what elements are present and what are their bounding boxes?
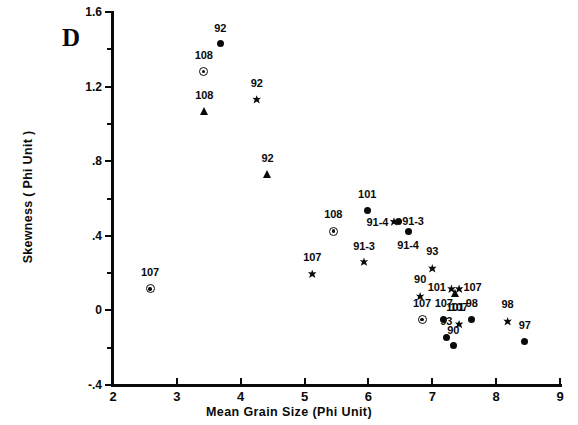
y-axis-title: Skewness ( Phi Unit )	[21, 107, 35, 287]
x-tick-label: 6	[353, 389, 383, 404]
y-tick-label: 0	[56, 303, 102, 317]
y-minor-tick	[107, 347, 113, 349]
marker-triangle-icon	[451, 289, 459, 297]
x-tick	[559, 378, 561, 384]
y-tick	[105, 86, 113, 88]
marker-star-icon	[252, 95, 261, 104]
x-tick-label: 4	[226, 389, 256, 404]
marker-ringdot-icon	[329, 227, 338, 236]
data-point-label: 91-4	[367, 216, 389, 227]
y-tick-label: 1.6	[56, 5, 102, 19]
y-tick	[105, 384, 113, 386]
data-point-label: 91-3	[402, 216, 424, 227]
data-point-label: 108	[324, 209, 342, 220]
data-point-label: 107	[141, 267, 159, 278]
data-point-label: 92	[214, 23, 226, 34]
marker-ringdot-icon	[146, 284, 155, 293]
data-point-label: 107	[413, 298, 431, 309]
marker-triangle-icon	[200, 107, 208, 115]
y-tick	[105, 235, 113, 237]
x-tick	[495, 378, 497, 384]
data-point-label: 90	[414, 274, 426, 285]
data-point-label: 92	[262, 153, 274, 164]
marker-circle-icon	[450, 342, 457, 349]
x-tick	[176, 378, 178, 384]
scatter-plot-figure: D 234567891.61.2.8.40-.4 921081089292101…	[0, 0, 578, 425]
data-point-label: 91-4	[397, 240, 419, 251]
marker-star-icon	[428, 264, 437, 273]
x-tick	[304, 378, 306, 384]
x-tick-label: 5	[290, 389, 320, 404]
data-point-label: 108	[195, 50, 213, 61]
marker-star-icon	[359, 257, 368, 266]
y-minor-tick	[107, 48, 113, 50]
marker-circle-icon	[405, 228, 412, 235]
data-point-label: 101	[428, 282, 446, 293]
page-edge-artifact	[2, 414, 72, 423]
data-point-label: 91-3	[353, 241, 375, 252]
y-minor-tick	[107, 198, 113, 200]
y-minor-tick	[107, 272, 113, 274]
x-axis-title: Mean Grain Size (Phi Unit)	[0, 405, 578, 419]
y-tick	[105, 309, 113, 311]
x-tick-label: 8	[481, 389, 511, 404]
y-tick-label: .8	[56, 154, 102, 168]
x-tick	[431, 378, 433, 384]
data-point-label: 93	[426, 246, 438, 257]
y-tick	[105, 11, 113, 13]
data-point-label: 107	[303, 252, 321, 263]
y-tick-label: -.4	[56, 378, 102, 392]
y-tick	[105, 160, 113, 162]
data-point-label: 108	[195, 90, 213, 101]
data-point-label: 107	[450, 302, 468, 313]
marker-ringdot-icon	[418, 315, 427, 324]
data-point-label: 92	[251, 78, 263, 89]
data-point-label: 90	[447, 325, 459, 336]
marker-circle-icon	[395, 218, 402, 225]
marker-circle-icon	[364, 207, 371, 214]
y-tick-label: .4	[56, 229, 102, 243]
x-tick	[240, 378, 242, 384]
data-point-label: 107	[464, 282, 482, 293]
x-tick-label: 9	[545, 389, 575, 404]
panel-label: D	[62, 25, 80, 50]
marker-circle-icon	[521, 338, 528, 345]
x-tick-label: 2	[98, 389, 128, 404]
marker-circle-icon	[468, 316, 475, 323]
marker-star-icon	[503, 317, 512, 326]
y-tick-label: 1.2	[56, 80, 102, 94]
x-tick-label: 3	[162, 389, 192, 404]
marker-star-icon	[308, 270, 317, 279]
x-axis-line	[113, 384, 562, 387]
y-minor-tick	[107, 123, 113, 125]
x-tick-label: 7	[417, 389, 447, 404]
marker-circle-icon	[217, 40, 224, 47]
data-point-label: 97	[519, 320, 531, 331]
data-point-label: 101	[358, 189, 376, 200]
x-tick	[367, 378, 369, 384]
marker-ringdot-icon	[199, 67, 208, 76]
marker-triangle-icon	[263, 170, 271, 178]
data-point-label: 98	[502, 299, 514, 310]
